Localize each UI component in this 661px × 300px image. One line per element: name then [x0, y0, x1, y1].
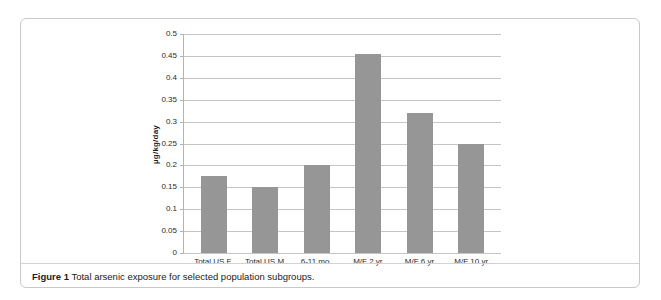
bar-slot	[240, 34, 292, 253]
figure-caption: Figure 1 Total arsenic exposure for sele…	[32, 271, 629, 283]
bar[interactable]	[201, 176, 227, 253]
bar-slot	[291, 34, 343, 253]
bar[interactable]	[355, 54, 381, 253]
figure-caption-label: Figure 1	[32, 271, 69, 282]
gridline: 0	[184, 253, 501, 254]
y-axis-tick-label: 0.2	[166, 161, 177, 169]
y-axis-tick-label: 0.35	[161, 96, 177, 104]
plot-area: 0.50.450.40.350.30.250.20.150.10.050	[183, 34, 501, 254]
y-axis-tick-label: 0.1	[166, 205, 177, 213]
y-axis-title-label: µg/kg/day	[151, 125, 160, 164]
x-axis-tick-label: Total US F	[187, 258, 239, 266]
caption-divider	[21, 263, 639, 264]
y-axis-tick-label: 0	[173, 249, 177, 257]
y-axis-tick-label: 0.4	[166, 74, 177, 82]
plot-frame: 0.50.450.40.350.30.250.20.150.10.050	[183, 34, 501, 254]
bar-slot	[343, 34, 395, 253]
y-axis-tick-label: 0.3	[166, 118, 177, 126]
bar-slot	[188, 34, 240, 253]
bar-slot	[394, 34, 446, 253]
x-axis-tick-label: 6-11 mo.	[290, 258, 342, 266]
x-axis-labels: Total US FTotal US M6-11 mo.M/F 2 yrM/F …	[183, 258, 501, 266]
bar-slot	[446, 34, 498, 253]
x-axis-tick-label: Total US M	[239, 258, 291, 266]
bars-layer	[184, 34, 501, 253]
y-axis-tick	[180, 253, 184, 254]
x-axis-tick-label: M/F 6 yr	[394, 258, 446, 266]
bar[interactable]	[304, 165, 330, 253]
bar[interactable]	[458, 144, 484, 254]
y-axis-tick-label: 0.45	[161, 52, 177, 60]
y-axis-tick-label: 0.05	[161, 227, 177, 235]
y-axis-tick-label: 0.15	[161, 183, 177, 191]
y-axis-tick-label: 0.25	[161, 140, 177, 148]
bar[interactable]	[407, 113, 433, 253]
bar[interactable]	[252, 187, 278, 253]
chart-region: µg/kg/day 0.50.450.40.350.30.250.20.150.…	[21, 19, 639, 263]
x-axis-tick-label: M/F 2 yr	[342, 258, 394, 266]
x-axis-tick-label: M/F 10 yr	[445, 258, 497, 266]
y-axis-tick-label: 0.5	[166, 30, 177, 38]
y-axis-title: µg/kg/day	[149, 34, 161, 254]
figure-caption-text: Total arsenic exposure for selected popu…	[71, 271, 314, 282]
figure-container: µg/kg/day 0.50.450.40.350.30.250.20.150.…	[20, 18, 640, 288]
